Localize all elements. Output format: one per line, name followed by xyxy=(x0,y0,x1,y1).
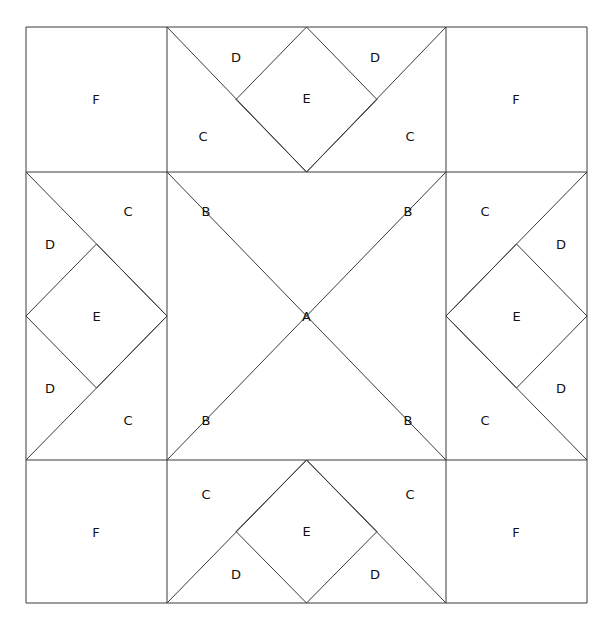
label-d-right-upper: D xyxy=(556,237,566,252)
label-c-top-right: C xyxy=(405,129,414,144)
label-b-top-right: B xyxy=(404,204,413,219)
quilt-block-canvas: ABBBBCCCCCCCCDDDDDDDDEEEEFFFF xyxy=(0,0,611,628)
label-e-bottom: E xyxy=(302,524,310,539)
label-c-bottom-left: C xyxy=(201,487,210,502)
label-b-bottom-right: B xyxy=(404,413,413,428)
left-diamond-lower-left xyxy=(26,316,97,388)
right-diamond-lower-right xyxy=(517,316,588,388)
label-c-left-upper: C xyxy=(123,204,132,219)
label-d-bottom-right: D xyxy=(370,567,380,582)
left-diamond-lower-right xyxy=(97,316,168,388)
piece-labels: ABBBBCCCCCCCCDDDDDDDDEEEEFFFF xyxy=(45,50,566,582)
label-c-top-left: C xyxy=(198,129,207,144)
bottom-diamond-lower-right xyxy=(307,532,378,604)
left-diamond-upper-right xyxy=(97,244,168,316)
top-diamond-lower-right xyxy=(307,100,378,173)
label-f-top-right: F xyxy=(512,92,519,107)
label-e-left: E xyxy=(92,309,100,324)
label-c-right-lower: C xyxy=(480,413,489,428)
label-c-right-upper: C xyxy=(480,204,489,219)
label-b-bottom-left: B xyxy=(202,413,211,428)
label-b-top-left: B xyxy=(202,204,211,219)
label-f-bottom-right: F xyxy=(512,525,519,540)
label-d-right-lower: D xyxy=(556,381,566,396)
quilt-block-diagram: ABBBBCCCCCCCCDDDDDDDDEEEEFFFF xyxy=(0,0,611,628)
label-c-bottom-right: C xyxy=(405,487,414,502)
label-a-center: A xyxy=(302,309,311,324)
left-diamond-upper-left xyxy=(26,244,97,316)
label-f-bottom-left: F xyxy=(92,525,99,540)
label-c-left-lower: C xyxy=(123,413,132,428)
bottom-diamond-lower-left xyxy=(236,532,307,604)
label-e-top: E xyxy=(302,91,310,106)
label-d-left-upper: D xyxy=(45,237,55,252)
right-diamond-lower-left xyxy=(446,316,517,388)
top-diamond-upper-right xyxy=(307,27,378,100)
bottom-diamond-upper-right xyxy=(307,460,378,532)
label-d-top-left: D xyxy=(231,50,241,65)
label-d-top-right: D xyxy=(370,50,380,65)
label-d-bottom-left: D xyxy=(231,567,241,582)
label-f-top-left: F xyxy=(92,92,99,107)
label-d-left-lower: D xyxy=(45,381,55,396)
right-diamond-upper-right xyxy=(517,244,588,316)
top-diamond-lower-left xyxy=(236,100,307,173)
top-diamond-upper-left xyxy=(236,27,307,100)
label-e-right: E xyxy=(512,309,520,324)
right-diamond-upper-left xyxy=(446,244,517,316)
bottom-diamond-upper-left xyxy=(236,460,307,532)
